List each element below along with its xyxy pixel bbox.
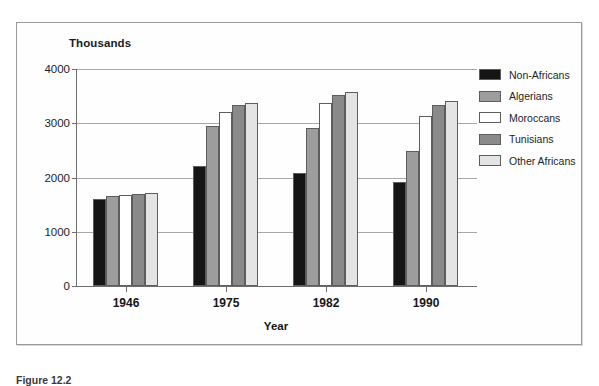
bar-series-container: [77, 69, 477, 286]
bar: [132, 194, 145, 286]
bar: [406, 151, 419, 286]
y-axis-tick-label: 0: [64, 280, 70, 292]
bar: [419, 116, 432, 286]
bar: [193, 166, 206, 286]
bar: [393, 182, 406, 286]
legend-label: Other Africans: [509, 155, 576, 167]
x-axis-title: Year: [76, 320, 476, 332]
x-axis-tick-mark: [426, 286, 427, 292]
bar: [445, 101, 458, 286]
x-axis-tick-mark: [326, 286, 327, 292]
x-axis-tick-label: 1946: [113, 296, 140, 310]
bar: [232, 105, 245, 286]
y-axis-tick-label: 4000: [44, 63, 70, 75]
legend-swatch-icon: [479, 155, 501, 166]
bar: [332, 95, 345, 287]
bar-group: [393, 69, 458, 286]
bar-group: [93, 69, 158, 286]
legend: Non-AfricansAlgeriansMoroccansTunisiansO…: [479, 66, 591, 174]
legend-label: Moroccans: [509, 112, 560, 124]
bar: [93, 199, 106, 286]
y-axis-units-label: Thousands: [69, 37, 131, 49]
y-axis-tick-label: 3000: [44, 117, 70, 129]
legend-swatch-icon: [479, 69, 501, 80]
x-axis-tick-mark: [226, 286, 227, 292]
legend-item[interactable]: Non-Africans: [479, 66, 591, 84]
legend-label: Algerians: [509, 90, 553, 102]
plot-area: [76, 69, 477, 287]
y-axis-tick-labels: 01000200030004000: [28, 69, 70, 286]
legend-label: Non-Africans: [509, 69, 570, 81]
bar: [219, 112, 232, 286]
legend-label: Tunisians: [509, 133, 554, 145]
y-axis-tick-label: 1000: [44, 226, 70, 238]
legend-swatch-icon: [479, 112, 501, 123]
bar: [432, 105, 445, 286]
legend-item[interactable]: Moroccans: [479, 109, 591, 127]
legend-item[interactable]: Other Africans: [479, 152, 591, 170]
x-axis-tick-label: 1975: [213, 296, 240, 310]
x-axis-tick-label: 1990: [413, 296, 440, 310]
legend-item[interactable]: Algerians: [479, 88, 591, 106]
y-axis-tick-label: 2000: [44, 172, 70, 184]
bar: [293, 173, 306, 286]
x-axis-tick-label: 1982: [313, 296, 340, 310]
x-axis-ticks: [76, 286, 476, 293]
legend-swatch-icon: [479, 134, 501, 145]
x-axis-tick-mark: [126, 286, 127, 292]
bar: [119, 195, 132, 286]
bar: [206, 126, 219, 286]
bar: [319, 103, 332, 286]
legend-swatch-icon: [479, 91, 501, 102]
x-axis-tick-labels: 1946197519821990: [76, 296, 476, 314]
bar: [345, 92, 358, 286]
legend-item[interactable]: Tunisians: [479, 131, 591, 149]
bar: [145, 193, 158, 286]
bar-group: [293, 69, 358, 286]
figure-caption: Figure 12.2: [16, 374, 71, 386]
bar: [306, 128, 319, 286]
bar: [245, 103, 258, 286]
bar-group: [193, 69, 258, 286]
bar: [106, 196, 119, 286]
